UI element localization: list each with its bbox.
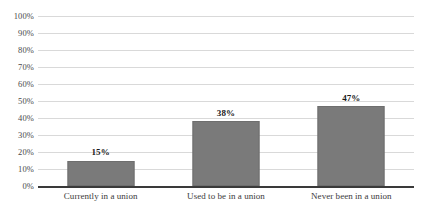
bar xyxy=(192,121,259,186)
y-axis-tick-label: 70% xyxy=(0,63,34,72)
bar-chart: 100% 90% 80% 70% 60% 50% 40% 30% 20% 10%… xyxy=(0,0,428,219)
bar-value-label: 15% xyxy=(92,148,110,157)
y-axis-tick-label: 20% xyxy=(0,148,34,157)
y-axis-tick-label: 90% xyxy=(0,29,34,38)
bar-value-label: 47% xyxy=(342,94,360,103)
bar xyxy=(67,161,134,187)
x-axis-baseline xyxy=(38,186,414,188)
x-axis-category-label: Currently in a union xyxy=(38,192,163,202)
y-axis-tick-label: 10% xyxy=(0,165,34,174)
bar-group: 15% xyxy=(38,0,163,186)
y-axis-tick-label: 100% xyxy=(0,12,34,21)
y-axis-tick-label: 40% xyxy=(0,114,34,123)
x-axis: Currently in a union Used to be in a uni… xyxy=(38,192,414,212)
bar-value-label: 38% xyxy=(217,109,235,118)
y-axis-tick-label: 30% xyxy=(0,131,34,140)
bar-group: 47% xyxy=(289,0,414,186)
y-axis: 100% 90% 80% 70% 60% 50% 40% 30% 20% 10%… xyxy=(0,0,34,219)
y-axis-tick-label: 50% xyxy=(0,97,34,106)
y-axis-tick-label: 0% xyxy=(0,182,34,191)
bar-group: 38% xyxy=(163,0,288,186)
x-axis-category-label: Never been in a union xyxy=(289,192,414,202)
bar xyxy=(318,106,385,186)
y-axis-tick-label: 60% xyxy=(0,80,34,89)
x-axis-category-label: Used to be in a union xyxy=(163,192,288,202)
y-axis-tick-label: 80% xyxy=(0,46,34,55)
